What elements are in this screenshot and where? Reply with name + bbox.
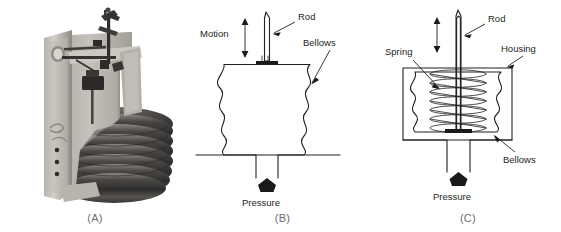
rod-leader-line bbox=[464, 24, 486, 38]
bellows-assembly-photo bbox=[0, 0, 190, 232]
rod-shape bbox=[256, 12, 278, 65]
pressure-label: Pressure bbox=[242, 197, 280, 208]
bellows-figure: (A) Motion Rod bbox=[0, 0, 561, 232]
spring-shape bbox=[430, 16, 486, 132]
base-and-inlet bbox=[196, 155, 340, 178]
motion-label: Motion bbox=[200, 28, 229, 39]
bellows-leader-line bbox=[311, 50, 330, 85]
base-and-inlet bbox=[403, 140, 512, 172]
panel-a: (A) bbox=[0, 0, 190, 232]
rod-base-plate bbox=[445, 129, 472, 133]
housing-label: Housing bbox=[501, 43, 536, 54]
pressure-inlet-marker bbox=[450, 172, 468, 186]
rod-label: Rod bbox=[298, 11, 315, 22]
housing-leader-line bbox=[507, 56, 523, 69]
spring-opposed-bellows-diagram: Rod Housing bbox=[375, 0, 561, 232]
panel-c-caption: (C) bbox=[375, 212, 561, 224]
spring-label: Spring bbox=[385, 46, 412, 57]
bellows-label: Bellows bbox=[303, 37, 336, 48]
rod-label: Rod bbox=[488, 13, 505, 24]
rod-leader-line bbox=[273, 22, 296, 36]
plain-bellows-diagram: Motion Rod Bellows bbox=[190, 0, 375, 232]
motion-arrow bbox=[434, 17, 441, 53]
panel-b: Motion Rod Bellows bbox=[190, 0, 375, 232]
pressure-inlet-marker bbox=[258, 178, 276, 192]
bellows-shape bbox=[218, 65, 311, 156]
bellows-label: Bellows bbox=[503, 154, 536, 165]
panel-a-caption: (A) bbox=[0, 212, 190, 224]
pressure-label: Pressure bbox=[433, 191, 471, 202]
panel-c: Rod Housing bbox=[375, 0, 561, 232]
motion-arrow bbox=[242, 18, 249, 58]
panel-b-caption: (B) bbox=[190, 212, 375, 224]
